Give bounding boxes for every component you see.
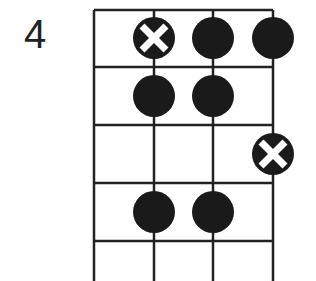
note-dot-icon (192, 17, 234, 59)
note-dot-icon (133, 75, 175, 117)
note-dot-icon (133, 191, 175, 233)
note-dot-icon (252, 17, 294, 59)
fretboard-grid (0, 0, 316, 281)
note-dot-icon (192, 191, 234, 233)
note-dot-icon (192, 75, 234, 117)
